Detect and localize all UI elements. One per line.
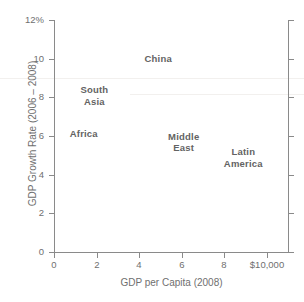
x-axis-tick-label: 8	[221, 260, 226, 270]
data-point-label: China	[145, 53, 172, 65]
y-axis-tick	[49, 213, 54, 214]
y-axis-tick	[49, 97, 54, 98]
x-axis-tick-label: 6	[179, 260, 184, 270]
data-point-label: Latin America	[224, 146, 263, 169]
x-axis-tick	[267, 253, 268, 258]
y-axis-tick	[49, 175, 54, 176]
y-axis-tick	[49, 20, 54, 21]
y-axis-tick-right	[289, 213, 294, 214]
scatter-chart: 024681012% 02468$10,000 ChinaSouth AsiaA…	[0, 0, 304, 302]
x-axis-tick-label: $10,000	[250, 260, 284, 270]
scan-artifact-line	[130, 94, 304, 95]
y-axis-tick-label: 0	[0, 247, 44, 257]
x-axis-tick-label: 0	[51, 260, 56, 270]
x-axis-tick	[97, 253, 98, 258]
y-axis-tick-right	[289, 20, 294, 21]
x-axis-title: GDP per Capita (2008)	[54, 277, 289, 288]
x-axis-tick	[182, 253, 183, 258]
scan-artifact-line	[0, 78, 304, 79]
x-axis-tick-label: 2	[94, 260, 99, 270]
y-axis-tick-right	[289, 59, 294, 60]
y-axis-tick-right	[289, 175, 294, 176]
y-axis-tick-right	[289, 252, 294, 253]
data-point-label: Africa	[70, 128, 98, 140]
y-axis-tick	[49, 59, 54, 60]
y-axis-line	[54, 20, 55, 253]
y-axis-tick-label: 12%	[0, 15, 44, 25]
y-axis-tick-right	[289, 97, 294, 98]
y-axis-title: GDP Growth Rate (2006 – 2008)	[27, 34, 38, 234]
x-axis-tick-label: 4	[136, 260, 141, 270]
x-axis-tick	[224, 253, 225, 258]
x-axis-line	[54, 252, 289, 253]
y-axis-tick-right	[289, 136, 294, 137]
x-axis-tick	[54, 253, 55, 258]
data-point-label: South Asia	[80, 84, 108, 107]
y-axis-tick	[49, 136, 54, 137]
data-point-label: Middle East	[168, 130, 199, 153]
x-axis-tick	[139, 253, 140, 258]
